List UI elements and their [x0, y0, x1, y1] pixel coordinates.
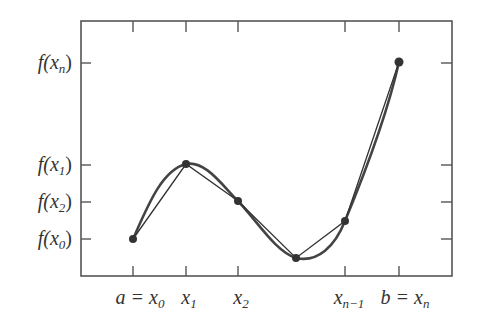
- point-x2: [234, 197, 242, 205]
- x-label-b-xn: b = xn: [381, 287, 430, 310]
- y-label-fx1: f(x1): [0, 154, 72, 177]
- y-ticks-left: [81, 63, 91, 239]
- point-x0: [129, 235, 137, 243]
- x-label-x2: x2: [233, 287, 248, 310]
- y-label-fx0: f(x0): [0, 228, 72, 251]
- point-xn: [395, 58, 404, 67]
- x-label-a-x0: a = x0: [116, 287, 165, 310]
- point-xn1: [341, 217, 349, 225]
- point-min: [292, 254, 300, 262]
- node-points: [129, 58, 404, 263]
- x-ticks-bottom: [133, 266, 399, 276]
- y-label-fx2: f(x2): [0, 191, 72, 214]
- x-label-x1: x1: [181, 287, 196, 310]
- y-label-fxn: f(xn): [0, 52, 72, 75]
- point-x1: [182, 160, 190, 168]
- x-ticks-top: [133, 21, 399, 32]
- chord-polyline: [133, 62, 399, 258]
- y-ticks-right: [441, 63, 452, 239]
- diagram-canvas: f(xn) f(x1) f(x2) f(x0) a = x0 x1 x2 xn−…: [0, 0, 479, 329]
- x-label-xn1: xn−1: [334, 287, 365, 310]
